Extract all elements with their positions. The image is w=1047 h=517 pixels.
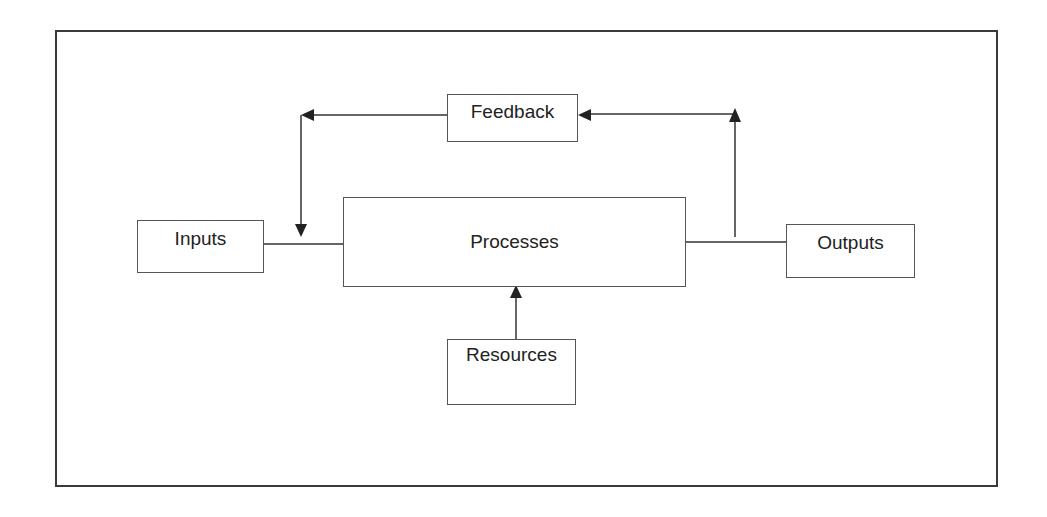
feedback-box: Feedback: [447, 94, 578, 142]
arrowhead-left-icon: [578, 109, 591, 121]
resources-box: Resources: [447, 339, 576, 405]
outputs-label: Outputs: [787, 232, 914, 254]
arrowhead-down-icon: [295, 224, 307, 237]
inputs-box: Inputs: [137, 220, 264, 273]
inputs-label: Inputs: [138, 228, 263, 250]
arrowhead-up-icon: [729, 108, 741, 122]
arrowhead-left-icon: [301, 109, 314, 121]
resources-label: Resources: [448, 344, 575, 366]
feedback-label: Feedback: [448, 101, 577, 123]
processes-label: Processes: [344, 231, 685, 253]
processes-box: Processes: [343, 197, 686, 287]
outputs-box: Outputs: [786, 224, 915, 278]
